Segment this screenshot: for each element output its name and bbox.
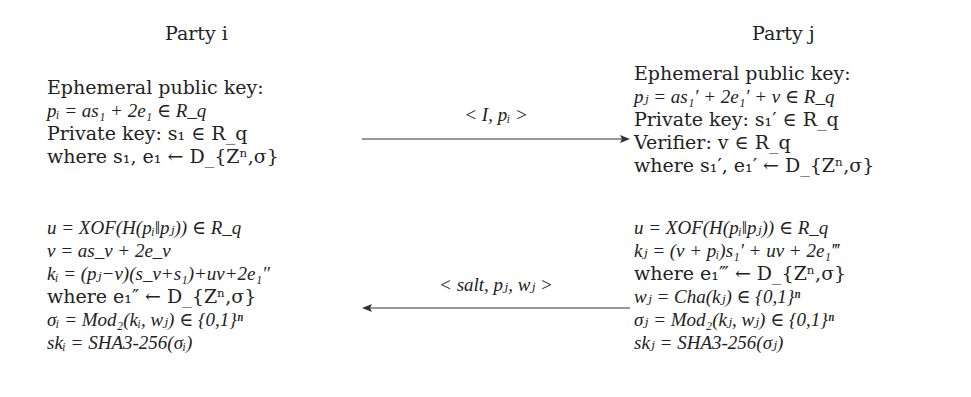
party-i-v-eq: v = as_v + 2e_v [47,239,270,262]
party-j-session-block: u = XOF(H(pᵢ‖pⱼ)) ∈ R_q kⱼ = (v + pᵢ)s₁′… [634,216,846,354]
party-i-keygen-block: Ephemeral public key: pᵢ = as₁ + 2e₁ ∈ R… [47,76,279,168]
party-j-u-eq: u = XOF(H(pᵢ‖pⱼ)) ∈ R_q [634,216,846,239]
party-j-verifier: Verifier: v ∈ R_q [634,131,874,154]
left-arrow-icon [362,273,630,317]
party-i-public-key-eq: pᵢ = as₁ + 2e₁ ∈ R_q [47,99,279,122]
party-j-sampling: where s₁′, e₁′ ← D_{Zⁿ,σ} [634,154,874,177]
party-i-sampling: where s₁, e₁ ← D_{Zⁿ,σ} [47,145,279,168]
party-j-w-eq: wⱼ = Cha(kⱼ) ∈ {0,1}ⁿ [634,285,846,308]
party-j-e-sampling: where e₁‴ ← D_{Zⁿ,σ} [634,262,846,285]
party-j-keygen-block: Ephemeral public key: pⱼ = as₁′ + 2e₁′ +… [634,62,874,177]
party-i-u-eq: u = XOF(H(pᵢ‖pⱼ)) ∈ R_q [47,216,270,239]
party-i-session-block: u = XOF(H(pᵢ‖pⱼ)) ∈ R_q v = as_v + 2e_v … [47,216,270,354]
party-i-k-eq: kᵢ = (pⱼ−v)(s_v+s₁)+uv+2e₁″ [47,262,270,285]
message-1: < I, pᵢ > [362,104,630,148]
party-i-private-key: Private key: s₁ ∈ R_q [47,122,279,145]
party-j-public-key-eq: pⱼ = as₁′ + 2e₁′ + v ∈ R_q [634,85,874,108]
party-i-title: Party i [165,22,228,44]
party-j-sigma-eq: σⱼ = Mod₂(kⱼ, wⱼ) ∈ {0,1}ⁿ [634,308,846,331]
right-arrow-icon [362,104,630,148]
party-j-title: Party j [752,22,815,44]
message-2: < salt, pⱼ, wⱼ > [362,273,630,317]
party-i-sigma-eq: σᵢ = Mod₂(kᵢ, wⱼ) ∈ {0,1}ⁿ [47,308,270,331]
party-i-ephemeral-label: Ephemeral public key: [47,76,279,99]
party-j-sk-eq: skⱼ = SHA3-256(σⱼ) [634,331,846,354]
party-j-private-key: Private key: s₁′ ∈ R_q [634,108,874,131]
party-j-k-eq: kⱼ = (v + pᵢ)s₁′ + uv + 2e₁‴ [634,239,846,262]
party-i-sk-eq: skᵢ = SHA3-256(σᵢ) [47,331,270,354]
party-i-e-sampling: where e₁″ ← D_{Zⁿ,σ} [47,285,270,308]
party-j-ephemeral-label: Ephemeral public key: [634,62,874,85]
